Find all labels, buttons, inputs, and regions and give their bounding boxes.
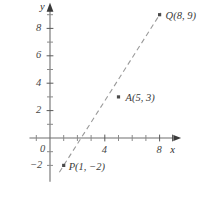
data-point-marker-p xyxy=(62,164,65,167)
x-tick-label-4: 4 xyxy=(102,145,107,156)
x-axis-label: x xyxy=(170,145,175,156)
y-tick-label-6: 6 xyxy=(36,50,41,61)
coordinate-plane-figure: y x 0 482468−2P(1, −2)A(5, 3)Q(8, 9) xyxy=(0,0,199,199)
tick-marks-group xyxy=(36,15,173,166)
data-point-marker-q xyxy=(158,13,161,16)
y-tick-label-4: 4 xyxy=(36,78,41,89)
point-label-q: Q(8, 9) xyxy=(166,11,196,22)
point-label-p: P(1, −2) xyxy=(69,162,105,173)
origin-tick-label: 0 xyxy=(40,144,45,155)
data-point-marker-a xyxy=(117,95,120,98)
point-label-a: A(5, 3) xyxy=(126,93,155,104)
y-axis-arrowhead xyxy=(47,3,54,12)
y-tick-label-minus-2: −2 xyxy=(30,160,42,171)
y-tick-label-2: 2 xyxy=(36,105,41,116)
y-tick-label-8: 8 xyxy=(36,23,41,34)
x-tick-label-8: 8 xyxy=(157,145,162,156)
y-axis-label: y xyxy=(40,2,45,13)
